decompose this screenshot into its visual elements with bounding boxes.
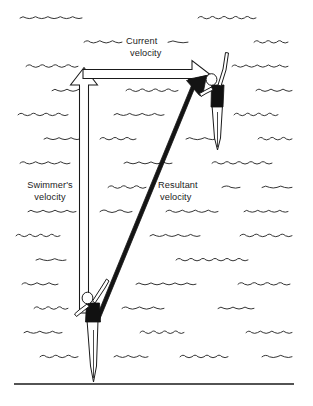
wave-squiggle: [22, 283, 58, 285]
wave-squiggle: [114, 355, 148, 357]
swimmer-end-head: [206, 74, 217, 86]
wave-squiggle: [198, 16, 256, 18]
current-velocity-label: Current velocity: [126, 36, 161, 59]
wave-squiggle: [166, 210, 218, 212]
diagram-canvas: [0, 0, 313, 406]
swimmers-velocity-label-line2: velocity: [24, 192, 76, 204]
wave-squiggle: [176, 258, 248, 260]
wave-squiggle: [122, 307, 164, 309]
wave-squiggle: [34, 307, 68, 310]
wave-squiggle: [180, 355, 228, 358]
wave-squiggle: [262, 355, 292, 357]
wave-squiggle: [244, 210, 288, 212]
swimmer-end-raised-arm: [218, 53, 229, 87]
resultant-velocity-label: Resultant velocity: [158, 180, 216, 203]
wave-squiggle: [40, 355, 78, 357]
wave-squiggle: [100, 210, 132, 213]
wave-squiggle: [234, 113, 278, 116]
wave-squiggle: [168, 41, 188, 43]
swimmer-start-legs: [87, 320, 98, 382]
wave-squiggle: [108, 186, 146, 189]
current-velocity-label-line2: velocity: [126, 48, 161, 60]
swimmers-velocity-label-line1: Swimmer's: [27, 180, 73, 190]
wave-squiggle: [36, 259, 66, 261]
wave-squiggle: [186, 138, 216, 140]
wave-squiggle: [212, 162, 272, 164]
wave-squiggle: [150, 234, 200, 236]
wave-squiggle: [100, 137, 136, 139]
wave-squiggle: [262, 186, 292, 188]
wave-squiggle: [246, 331, 292, 333]
wave-squiggle: [84, 41, 122, 43]
wave-squiggle: [114, 113, 164, 115]
resultant-velocity-label-line2: velocity: [158, 192, 216, 204]
wave-squiggle: [254, 41, 288, 43]
wave-squiggle: [136, 283, 196, 285]
wave-squiggle: [16, 234, 60, 236]
wave-squiggle: [240, 234, 292, 237]
wave-squiggle: [222, 186, 240, 188]
wave-squiggle: [238, 283, 290, 285]
swimmer-end-figure: [200, 53, 229, 151]
wave-squiggle: [18, 113, 68, 115]
current-velocity-label-line1: Current: [126, 36, 157, 46]
resultant-velocity-label-line1: Resultant: [158, 180, 198, 190]
wave-squiggle: [20, 17, 82, 19]
wave-squiggle: [232, 65, 288, 67]
wave-squiggle: [20, 162, 70, 164]
swimmer-end-swimsuit: [211, 85, 224, 107]
swimmer-start-head: [82, 292, 93, 304]
wave-squiggle: [44, 138, 80, 140]
swimmers-velocity-label: Swimmer's velocity: [24, 180, 76, 203]
wave-squiggle: [26, 65, 78, 68]
wave-squiggle: [140, 331, 184, 334]
wave-squiggle: [258, 137, 292, 140]
wave-squiggle: [24, 331, 62, 333]
wave-squiggle: [218, 307, 254, 309]
vector-diagram-figure: Current velocity Swimmer's velocity Resu…: [0, 0, 313, 406]
wave-squiggle: [124, 162, 172, 164]
wave-squiggle: [28, 210, 76, 212]
wave-squiggle: [126, 89, 178, 92]
wave-squiggle: [256, 89, 292, 91]
